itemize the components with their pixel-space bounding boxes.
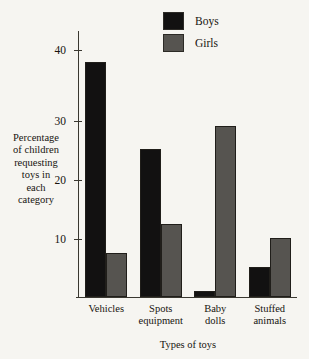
x-tick-label-spots-equipment: Spotsequipment bbox=[134, 303, 189, 328]
x-tick-label-line: Spots bbox=[134, 303, 189, 315]
x-tick-label-line: animals bbox=[243, 315, 298, 327]
x-tick-label-stuffed-animals: Stuffedanimals bbox=[243, 303, 298, 328]
bar-girls-spots-equipment[interactable] bbox=[161, 224, 182, 297]
bar-girls-vehicles[interactable] bbox=[106, 253, 127, 297]
x-tick-label-line: Baby bbox=[188, 303, 243, 315]
y-tick-label-30: 30 bbox=[55, 115, 67, 127]
y-tick-label-10: 10 bbox=[55, 233, 67, 245]
y-axis-title-line: Percentage bbox=[2, 132, 70, 144]
legend-item-boys: Boys bbox=[163, 10, 283, 32]
x-tick-label-line: Stuffed bbox=[243, 303, 298, 315]
x-tick-label-vehicles: Vehicles bbox=[79, 303, 134, 328]
x-tick-label-line: Vehicles bbox=[79, 303, 134, 315]
bar-group bbox=[188, 31, 243, 297]
y-axis-title-line: each bbox=[2, 182, 70, 194]
y-axis-title-line: of children bbox=[2, 144, 70, 156]
bar-girls-stuffed-animals[interactable] bbox=[270, 238, 291, 297]
bar-group bbox=[79, 31, 134, 297]
bar-boys-stuffed-animals[interactable] bbox=[249, 267, 270, 297]
x-tick-label-line: equipment bbox=[134, 315, 189, 327]
y-axis-title-line: requesting bbox=[2, 157, 70, 169]
bar-boys-vehicles[interactable] bbox=[85, 62, 106, 297]
bar-group bbox=[134, 31, 189, 297]
y-axis-title: Percentageof childrenrequestingtoys inea… bbox=[2, 132, 70, 206]
bar-chart-figure: Boys Girls 40 30 20 10 Percentageof ch bbox=[0, 0, 309, 359]
x-tick-label-baby-dolls: Babydolls bbox=[188, 303, 243, 328]
x-tick-label-line: dolls bbox=[188, 315, 243, 327]
y-axis-title-line: toys in bbox=[2, 169, 70, 181]
legend-swatch-boys bbox=[163, 12, 184, 30]
bar-boys-baby-dolls[interactable] bbox=[194, 291, 215, 297]
x-axis-line bbox=[76, 297, 297, 298]
x-axis-title: Types of toys bbox=[79, 339, 297, 350]
y-tick-label-40: 40 bbox=[55, 44, 67, 56]
legend-label-boys: Boys bbox=[195, 15, 219, 27]
plot-area: 40 30 20 10 bbox=[78, 31, 297, 298]
bar-groups bbox=[79, 31, 297, 297]
bar-boys-spots-equipment[interactable] bbox=[140, 149, 161, 297]
bar-girls-baby-dolls[interactable] bbox=[215, 126, 236, 297]
y-axis-title-line: category bbox=[2, 194, 70, 206]
x-axis-tick-labels: VehiclesSpotsequipmentBabydollsStuffedan… bbox=[79, 303, 297, 328]
bar-group bbox=[243, 31, 298, 297]
